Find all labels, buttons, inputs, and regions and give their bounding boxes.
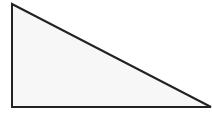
right-triangle [12,4,211,107]
diagram-canvas [0,0,212,125]
